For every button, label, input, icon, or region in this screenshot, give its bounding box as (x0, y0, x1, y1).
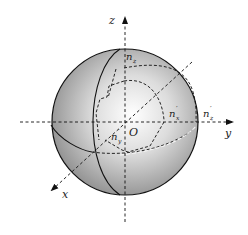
origin-label: O (129, 126, 138, 139)
y-axis-label: y (224, 127, 232, 140)
x-axis-label: x (62, 188, 69, 201)
svg-text:z: z (209, 114, 214, 121)
label-n-on-y-axis: n ′ z (203, 105, 214, 121)
svg-text:y: y (117, 137, 122, 145)
z-axis-label: z (108, 14, 115, 27)
index-sphere-diagram: z y x O n ′ z n ′ x n ′ y n ′ z (0, 0, 248, 235)
svg-text:n: n (203, 108, 209, 119)
svg-text:n: n (169, 108, 175, 119)
svg-text:n: n (111, 131, 117, 142)
svg-text:′: ′ (210, 105, 212, 113)
svg-text:n: n (126, 51, 132, 62)
